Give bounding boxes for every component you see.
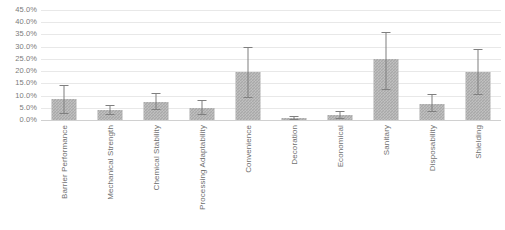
bar-group[interactable] xyxy=(409,10,455,120)
y-tick-label: 25.0% xyxy=(15,55,37,63)
x-tick: Mechanical Strength xyxy=(87,123,133,228)
error-bar xyxy=(110,105,111,114)
error-bar-cap-lower xyxy=(428,111,437,112)
bar-group[interactable] xyxy=(133,10,179,120)
bar-chart: 45.0%40.0%35.0%30.0%25.0%20.0%15.0%10.0%… xyxy=(0,0,505,230)
error-bar-cap-lower xyxy=(152,109,161,110)
x-tick: Shielding xyxy=(455,123,501,228)
error-bar xyxy=(248,47,249,97)
x-tick-label: Processing Adaptability xyxy=(198,125,207,210)
x-tick: Processing Adaptability xyxy=(179,123,225,228)
x-tick-label: Shielding xyxy=(474,125,483,159)
error-bar xyxy=(478,49,479,94)
y-tick-label: 10.0% xyxy=(15,92,37,100)
plot-area xyxy=(41,10,501,120)
x-tick-label: Chemical Stability xyxy=(152,125,161,190)
error-bar xyxy=(64,85,65,113)
bar-group[interactable] xyxy=(179,10,225,120)
x-tick-label: Barrier Performance xyxy=(60,125,69,199)
error-bar-cap-lower xyxy=(60,113,69,114)
axis-baseline xyxy=(41,120,501,121)
error-bar-cap-upper xyxy=(60,85,69,86)
bar-group[interactable] xyxy=(317,10,363,120)
error-bar-cap-upper xyxy=(474,49,483,50)
error-bar-cap-upper xyxy=(336,111,345,112)
y-tick-label: 15.0% xyxy=(15,79,37,87)
bar-group[interactable] xyxy=(225,10,271,120)
x-tick: Sanitary xyxy=(363,123,409,228)
y-tick-label: 20.0% xyxy=(15,67,37,75)
error-bar-cap-upper xyxy=(198,100,207,101)
error-bar-cap-upper xyxy=(106,105,115,106)
x-tick: Chemical Stability xyxy=(133,123,179,228)
y-tick-label: 40.0% xyxy=(15,18,37,26)
error-bar-cap-upper xyxy=(244,47,253,48)
x-tick-label: Decoration xyxy=(290,125,299,165)
error-bar-cap-upper xyxy=(428,94,437,95)
y-tick-label: 45.0% xyxy=(15,6,37,14)
error-bar-cap-lower xyxy=(382,89,391,90)
bar-group[interactable] xyxy=(87,10,133,120)
error-bar xyxy=(202,100,203,113)
bar-group[interactable] xyxy=(455,10,501,120)
x-tick: Barrier Performance xyxy=(41,123,87,228)
bar-group[interactable] xyxy=(41,10,87,120)
x-tick: Disposability xyxy=(409,123,455,228)
x-tick-label: Convenience xyxy=(244,125,253,173)
error-bar-cap-upper xyxy=(382,32,391,33)
error-bar xyxy=(386,32,387,89)
bar-group[interactable] xyxy=(363,10,409,120)
error-bar-cap-lower xyxy=(336,118,345,119)
error-bar-cap-lower xyxy=(474,94,483,95)
y-tick-label: 30.0% xyxy=(15,43,37,51)
y-tick-label: 0.0% xyxy=(20,116,38,124)
x-axis: Barrier PerformanceMechanical StrengthCh… xyxy=(41,123,501,228)
y-axis: 45.0%40.0%35.0%30.0%25.0%20.0%15.0%10.0%… xyxy=(0,0,40,126)
x-tick-label: Mechanical Strength xyxy=(106,125,115,200)
error-bar-cap-lower xyxy=(198,114,207,115)
error-bar xyxy=(156,93,157,109)
y-tick-label: 5.0% xyxy=(20,104,38,112)
x-tick-label: Sanitary xyxy=(382,125,391,155)
error-bar-cap-lower xyxy=(244,97,253,98)
x-tick: Convenience xyxy=(225,123,271,228)
error-bar-cap-upper xyxy=(290,116,299,117)
x-tick: Economical xyxy=(317,123,363,228)
x-tick-label: Economical xyxy=(336,125,345,167)
error-bar xyxy=(432,94,433,111)
error-bar-cap-upper xyxy=(152,93,161,94)
x-tick-label: Disposability xyxy=(428,125,437,171)
error-bar-cap-lower xyxy=(106,114,115,115)
bar-group[interactable] xyxy=(271,10,317,120)
x-tick: Decoration xyxy=(271,123,317,228)
y-tick-label: 35.0% xyxy=(15,30,37,38)
